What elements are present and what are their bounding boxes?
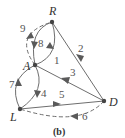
node-R xyxy=(50,20,54,24)
arrow-edge-8 xyxy=(31,41,38,49)
arrow-edge-7 xyxy=(15,78,22,86)
edge-label-6: 6 xyxy=(82,110,88,122)
edge-label-8: 8 xyxy=(38,37,44,49)
edge-label-9: 9 xyxy=(20,22,26,34)
edge-label-1: 1 xyxy=(54,54,60,66)
arrow-edge-5 xyxy=(53,101,61,107)
edge-6 xyxy=(20,101,104,117)
node-label-L: L xyxy=(9,110,17,124)
edge-label-7: 7 xyxy=(9,78,15,90)
node-A xyxy=(33,63,37,67)
arrow-edge-9 xyxy=(26,32,34,39)
arrow-edge-1 xyxy=(46,42,54,49)
figure-caption: (b) xyxy=(53,126,65,138)
node-label-R: R xyxy=(48,4,57,18)
node-L xyxy=(18,107,22,111)
arrow-edge-6 xyxy=(70,113,78,120)
edge-label-5: 5 xyxy=(59,88,65,100)
edge-label-4: 4 xyxy=(41,87,47,99)
node-D xyxy=(102,99,106,103)
edge-5 xyxy=(20,101,104,109)
node-label-A: A xyxy=(22,59,31,73)
directed-graph: 1 2 3 4 5 6 7 8 9 R A D L (b) xyxy=(0,0,125,138)
edge-label-3: 3 xyxy=(70,66,76,78)
edge-label-2: 2 xyxy=(78,42,84,54)
node-label-D: D xyxy=(108,95,118,109)
